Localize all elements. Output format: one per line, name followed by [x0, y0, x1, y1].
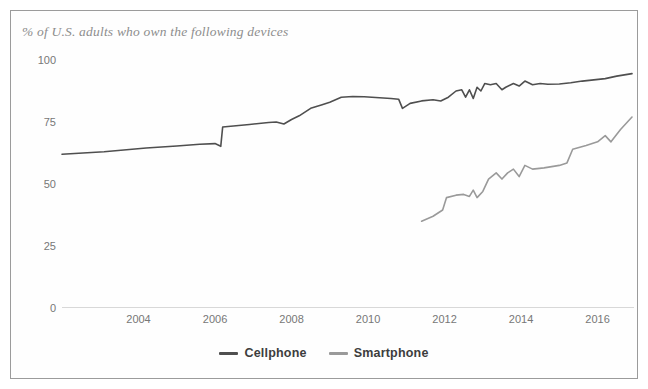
legend-item-cellphone[interactable]: Cellphone — [219, 346, 306, 360]
x-tick-label: 2016 — [585, 313, 609, 325]
x-tick-label: 2014 — [509, 313, 533, 325]
legend-label: Smartphone — [354, 346, 429, 360]
legend-line-swatch-icon — [329, 352, 348, 355]
y-tick-label: 0 — [50, 302, 56, 314]
x-tick-label: 2010 — [356, 313, 380, 325]
y-tick-label: 75 — [44, 116, 56, 128]
plot-area — [62, 60, 632, 308]
legend-item-smartphone[interactable]: Smartphone — [329, 346, 429, 360]
y-tick-label: 25 — [44, 240, 56, 252]
legend-line-swatch-icon — [219, 352, 238, 355]
x-tick-label: 2012 — [432, 313, 456, 325]
legend-label: Cellphone — [244, 346, 306, 360]
y-tick-label: 50 — [44, 178, 56, 190]
chart-legend: CellphoneSmartphone — [0, 346, 648, 360]
chart-title: % of U.S. adults who own the following d… — [22, 24, 288, 40]
x-tick-label: 2006 — [203, 313, 227, 325]
series-line-cellphone — [62, 74, 632, 155]
x-tick-label: 2008 — [279, 313, 303, 325]
line-chart-svg — [62, 60, 632, 308]
x-tick-label: 2004 — [126, 313, 150, 325]
y-axis-tick-labels: 0255075100 — [14, 60, 56, 308]
chart-screenshot: % of U.S. adults who own the following d… — [0, 0, 648, 389]
series-line-smartphone — [422, 117, 632, 221]
y-tick-label: 100 — [38, 54, 56, 66]
